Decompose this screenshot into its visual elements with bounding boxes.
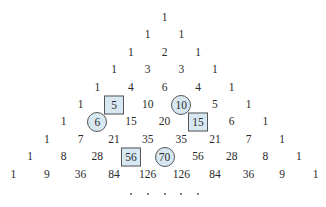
triangle-entry: 1 xyxy=(111,64,117,76)
triangle-entry: 7 xyxy=(78,134,84,146)
triangle-entry: 36 xyxy=(243,169,255,181)
triangle-entry: 1 xyxy=(296,151,302,163)
triangle-entry: 9 xyxy=(279,169,285,181)
triangle-entry: 3 xyxy=(145,64,151,76)
triangle-entry: 1 xyxy=(44,134,50,146)
triangle-entry: 6 xyxy=(229,117,235,129)
triangle-entry: 35 xyxy=(176,134,188,146)
circled-entry: 6 xyxy=(87,112,107,132)
pascal-triangle: 1111211331146411510105116152015611721353… xyxy=(0,0,326,207)
triangle-entry: 8 xyxy=(61,151,67,163)
triangle-entry: 1 xyxy=(229,82,235,94)
triangle-entry: 21 xyxy=(209,134,221,146)
triangle-entry: 84 xyxy=(108,169,120,181)
triangle-entry: 10 xyxy=(142,99,154,111)
triangle-entry: 3 xyxy=(178,64,184,76)
triangle-entry: 84 xyxy=(209,169,221,181)
triangle-entry: 2 xyxy=(162,47,168,59)
triangle-entry: 5 xyxy=(212,99,218,111)
triangle-entry: 1 xyxy=(94,82,100,94)
triangle-entry: 9 xyxy=(44,169,50,181)
continuation-dot xyxy=(197,193,199,195)
circled-entry: 70 xyxy=(155,147,175,167)
triangle-entry: 56 xyxy=(192,151,204,163)
triangle-entry: 28 xyxy=(226,151,238,163)
boxed-entry: 15 xyxy=(188,113,208,132)
triangle-entry: 36 xyxy=(75,169,87,181)
triangle-entry: 6 xyxy=(162,82,168,94)
triangle-entry: 1 xyxy=(61,117,67,129)
triangle-entry: 35 xyxy=(142,134,154,146)
triangle-entry: 7 xyxy=(246,134,252,146)
triangle-entry: 1 xyxy=(195,47,201,59)
continuation-dot xyxy=(130,193,132,195)
triangle-entry: 4 xyxy=(195,82,201,94)
triangle-entry: 1 xyxy=(246,99,252,111)
triangle-entry: 28 xyxy=(92,151,104,163)
triangle-entry: 126 xyxy=(139,169,156,181)
continuation-dot xyxy=(180,193,182,195)
triangle-entry: 1 xyxy=(78,99,84,111)
triangle-entry: 4 xyxy=(128,82,134,94)
triangle-entry: 21 xyxy=(108,134,120,146)
triangle-entry: 1 xyxy=(128,47,134,59)
triangle-entry: 1 xyxy=(162,12,168,24)
triangle-entry: 1 xyxy=(145,30,151,42)
triangle-entry: 1 xyxy=(279,134,285,146)
triangle-entry: 1 xyxy=(313,169,319,181)
triangle-entry: 20 xyxy=(159,117,171,129)
triangle-entry: 126 xyxy=(173,169,190,181)
boxed-entry: 56 xyxy=(121,148,141,167)
triangle-entry: 1 xyxy=(27,151,33,163)
boxed-entry: 5 xyxy=(104,96,124,115)
continuation-dot xyxy=(147,193,149,195)
triangle-entry: 1 xyxy=(10,169,16,181)
triangle-entry: 1 xyxy=(178,30,184,42)
triangle-entry: 8 xyxy=(262,151,268,163)
continuation-dot xyxy=(164,193,166,195)
triangle-entry: 1 xyxy=(262,117,268,129)
triangle-entry: 15 xyxy=(125,117,137,129)
triangle-entry: 1 xyxy=(212,64,218,76)
